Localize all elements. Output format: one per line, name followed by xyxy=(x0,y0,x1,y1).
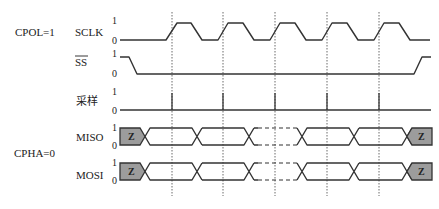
ss-waveform xyxy=(120,57,431,74)
ss-level-high: 1 xyxy=(112,48,117,59)
sclk-level-low: 0 xyxy=(112,35,117,46)
signal-label-mosi: MOSI xyxy=(76,169,104,181)
miso-z-label-end: Z xyxy=(418,131,425,142)
cpha-label: CPHA=0 xyxy=(14,147,56,159)
ss-text: SS xyxy=(75,56,87,68)
sample-waveform xyxy=(120,93,431,110)
spi-timing-diagram: CPOL=1 CPHA=0 SCLK SS 采样 MISO MOSI 1 0 1… xyxy=(0,0,439,209)
signal-label-sample: 采样 xyxy=(76,94,98,107)
signal-label-miso: MISO xyxy=(76,131,104,143)
sample-level-high: 1 xyxy=(112,86,117,97)
sample-level-low: 0 xyxy=(112,105,117,116)
miso-level-high: 1 xyxy=(112,122,117,133)
miso-level-low: 0 xyxy=(112,140,117,151)
miso-waveform: Z Z xyxy=(120,128,432,145)
ss-level-low: 0 xyxy=(112,68,117,79)
mosi-waveform: Z Z xyxy=(120,163,432,180)
miso-z-label-start: Z xyxy=(128,131,135,142)
signal-label-sclk: SCLK xyxy=(75,26,103,38)
cpol-label: CPOL=1 xyxy=(15,26,55,38)
sclk-level-high: 1 xyxy=(112,15,117,26)
signal-label-ss: SS xyxy=(75,56,88,68)
mosi-level-low: 0 xyxy=(112,175,117,186)
mosi-z-label-start: Z xyxy=(128,166,135,177)
mosi-z-label-end: Z xyxy=(418,166,425,177)
mosi-level-high: 1 xyxy=(112,157,117,168)
